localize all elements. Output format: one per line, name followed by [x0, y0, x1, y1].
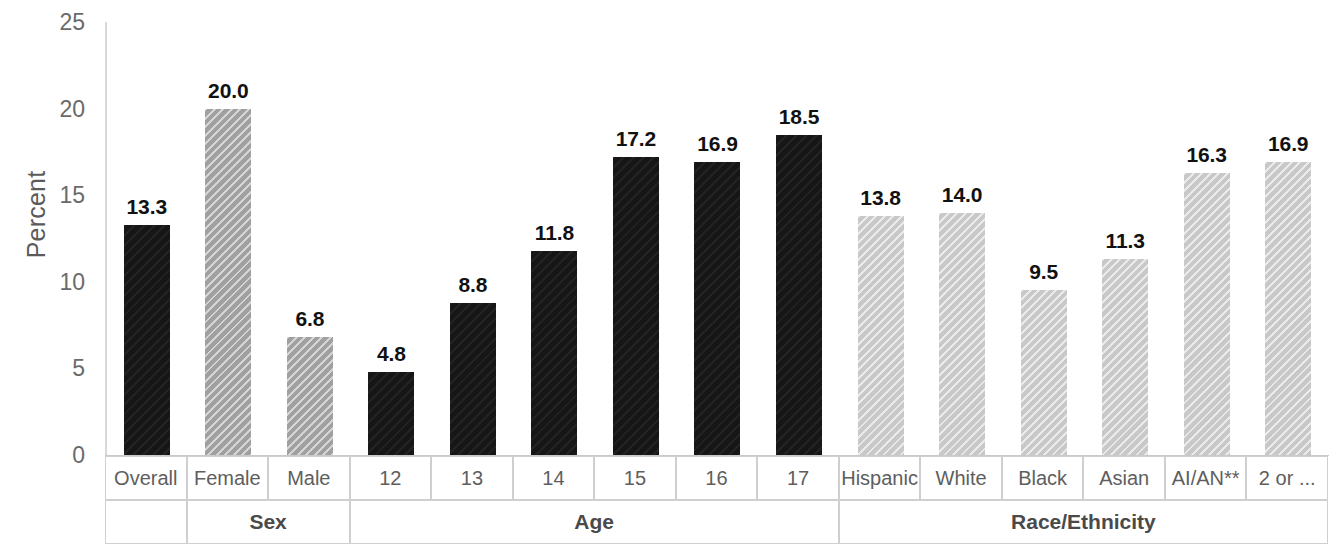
- bar[interactable]: [939, 213, 985, 455]
- bar-slot: 4.8: [351, 22, 433, 455]
- category-table: OverallFemaleMale121314151617HispanicWhi…: [105, 456, 1330, 544]
- bar[interactable]: [613, 157, 659, 455]
- bar-value-label: 4.8: [377, 342, 406, 366]
- bar[interactable]: [205, 109, 251, 455]
- plot-area: 13.320.06.84.88.811.817.216.918.513.814.…: [106, 22, 1329, 455]
- category-cell: 17: [757, 456, 839, 500]
- bar-slot: 16.9: [1247, 22, 1329, 455]
- category-cell: Overall: [105, 456, 187, 500]
- bar-value-label: 20.0: [208, 79, 248, 103]
- bar-slot: 13.3: [106, 22, 188, 455]
- bar-slot: 16.9: [677, 22, 759, 455]
- category-cell: White: [920, 456, 1002, 500]
- category-cell: 16: [676, 456, 758, 500]
- y-axis-tick-10: 10: [5, 268, 85, 295]
- y-axis-tick-list: 0510152025: [0, 0, 95, 548]
- y-axis-tick-0: 0: [5, 442, 85, 469]
- bar[interactable]: [776, 135, 822, 455]
- bar-value-label: 16.9: [1268, 132, 1308, 156]
- bar-value-label: 16.3: [1186, 143, 1226, 167]
- category-cell: 2 or ...: [1246, 456, 1328, 500]
- y-axis-tick-25: 25: [5, 9, 85, 36]
- bar-value-label: 6.8: [295, 307, 324, 331]
- bar[interactable]: [1184, 173, 1230, 455]
- bar-value-label: 17.2: [616, 127, 656, 151]
- category-cell: AI/AN**: [1165, 456, 1247, 500]
- bar-slot: 17.2: [595, 22, 677, 455]
- bar-value-label: 13.3: [127, 195, 167, 219]
- category-cell: 12: [350, 456, 432, 500]
- bar-value-label: 14.0: [942, 183, 982, 207]
- bar[interactable]: [287, 337, 333, 455]
- category-cell: 15: [594, 456, 676, 500]
- bar-value-label: 16.9: [697, 132, 737, 156]
- category-cell: Male: [268, 456, 350, 500]
- category-cell: Asian: [1083, 456, 1165, 500]
- bar-slot: 9.5: [1003, 22, 1085, 455]
- category-group-cell: Age: [350, 500, 839, 544]
- bar[interactable]: [124, 225, 170, 455]
- category-group-row: SexAgeRace/Ethnicity: [105, 500, 1330, 544]
- category-cell: Hispanic: [839, 456, 921, 500]
- category-cell: Female: [187, 456, 269, 500]
- bar[interactable]: [368, 372, 414, 455]
- y-axis-tick-15: 15: [5, 182, 85, 209]
- bar-slot: 13.8: [840, 22, 922, 455]
- bar[interactable]: [450, 303, 496, 455]
- bar-value-label: 11.8: [535, 221, 574, 245]
- bar-value-label: 13.8: [860, 186, 900, 210]
- bar[interactable]: [1021, 290, 1067, 455]
- y-axis-tick-5: 5: [5, 355, 85, 382]
- bar-value-label: 18.5: [779, 105, 819, 129]
- bar-value-label: 8.8: [458, 273, 487, 297]
- bar[interactable]: [1102, 259, 1148, 455]
- bar-slot: 11.3: [1084, 22, 1166, 455]
- bar[interactable]: [858, 216, 904, 455]
- bar-value-label: 9.5: [1029, 260, 1058, 284]
- category-group-cell: Sex: [187, 500, 350, 544]
- bar[interactable]: [531, 251, 577, 455]
- bar-slot: 6.8: [269, 22, 351, 455]
- category-label-row: OverallFemaleMale121314151617HispanicWhi…: [105, 456, 1330, 500]
- bar[interactable]: [1265, 162, 1311, 455]
- bar-slot: 14.0: [921, 22, 1003, 455]
- category-cell: 13: [431, 456, 513, 500]
- category-cell: Black: [1002, 456, 1084, 500]
- category-group-cell: Race/Ethnicity: [839, 500, 1328, 544]
- bar[interactable]: [694, 162, 740, 455]
- category-cell: 14: [513, 456, 595, 500]
- bar-slot: 11.8: [514, 22, 596, 455]
- bar-value-label: 11.3: [1105, 229, 1144, 253]
- category-group-cell: [105, 500, 187, 544]
- bar-slot: 20.0: [188, 22, 270, 455]
- bar-slot: 18.5: [758, 22, 840, 455]
- y-axis-tick-20: 20: [5, 95, 85, 122]
- bar-chart: Percent 0510152025 13.320.06.84.88.811.8…: [0, 0, 1338, 548]
- bar-slot: 16.3: [1166, 22, 1248, 455]
- bar-slot: 8.8: [432, 22, 514, 455]
